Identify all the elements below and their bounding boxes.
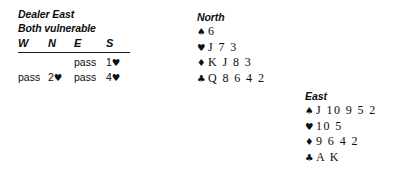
east-spade-row: ♠J 10 9 5 2 [305, 103, 377, 119]
bid-text: pass [74, 71, 96, 83]
north-heart-row: ♥J 7 3 [197, 40, 265, 56]
club-pip-icon: ♣ [305, 152, 314, 163]
auction-header-north: N [48, 37, 74, 53]
spade-pip-icon: ♠ [197, 26, 206, 37]
bid-cell-south: 1♥ [106, 53, 130, 71]
dealer-line: Dealer East [18, 8, 168, 22]
auction-header-east: E [74, 37, 106, 53]
club-pip-icon: ♣ [197, 73, 206, 84]
bid-cell-north [48, 53, 74, 71]
east-heart-row: ♥10 5 [305, 119, 377, 135]
north-diamond-cards: K J 8 3 [208, 55, 252, 69]
east-club-row: ♣A K [305, 150, 377, 166]
bid-cell-west [18, 53, 48, 71]
bid-cell-east: pass [74, 53, 106, 71]
diamond-pip-icon: ♦ [305, 136, 314, 147]
north-club-cards: Q 8 6 4 2 [208, 71, 265, 85]
diamond-pip-icon: ♦ [197, 57, 206, 68]
bid-text: pass [74, 56, 96, 68]
east-heart-cards: 10 5 [316, 119, 343, 133]
east-spade-cards: J 10 9 5 2 [316, 103, 377, 117]
east-club-cards: A K [316, 150, 340, 164]
east-diamond-cards: 9 6 4 2 [316, 134, 359, 148]
auction-row: pass 1♥ [18, 53, 130, 71]
spade-pip-icon: ♠ [305, 105, 314, 116]
auction-table: W N E S pass 1♥ pass 2♥ pass 4♥ [18, 37, 130, 85]
heart-pip-icon: ♥ [197, 42, 206, 53]
hand-east: East ♠J 10 9 5 2 ♥10 5 ♦9 6 4 2 ♣A K [305, 89, 377, 165]
north-club-row: ♣Q 8 6 4 2 [197, 71, 265, 87]
hand-east-label: East [305, 89, 377, 103]
north-spade-cards: 6 [208, 24, 215, 38]
auction-header-south: S [106, 37, 130, 53]
heart-suit-icon: ♥ [54, 72, 63, 83]
bid-cell-east: pass [74, 70, 106, 85]
heart-suit-icon: ♥ [112, 72, 121, 83]
auction-header-west: W [18, 37, 48, 53]
north-spade-row: ♠6 [197, 24, 265, 40]
hand-north-label: North [197, 10, 265, 24]
north-heart-cards: J 7 3 [208, 40, 238, 54]
north-diamond-row: ♦K J 8 3 [197, 55, 265, 71]
bid-cell-south: 4♥ [106, 70, 130, 85]
vulnerability-line: Both vulnerable [18, 22, 168, 36]
auction-block: Dealer East Both vulnerable W N E S pass… [18, 8, 168, 85]
bid-cell-north: 2♥ [48, 70, 74, 85]
hand-north: North ♠6 ♥J 7 3 ♦K J 8 3 ♣Q 8 6 4 2 [197, 10, 265, 86]
heart-pip-icon: ♥ [305, 121, 314, 132]
heart-suit-icon: ♥ [112, 57, 121, 68]
bid-cell-west: pass [18, 70, 48, 85]
auction-row: pass 2♥ pass 4♥ [18, 70, 130, 85]
auction-header-row: W N E S [18, 37, 130, 53]
east-diamond-row: ♦9 6 4 2 [305, 134, 377, 150]
bid-text: pass [18, 71, 40, 83]
